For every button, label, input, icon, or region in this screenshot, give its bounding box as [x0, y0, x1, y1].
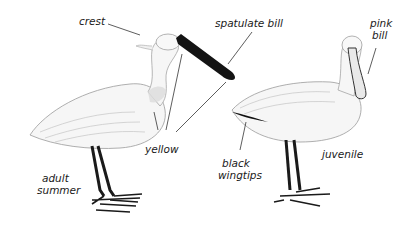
- pink-bill-leader-line: [368, 48, 376, 74]
- yellow-leader-line-bill: [176, 82, 226, 132]
- spatulate-bill-leader-line: [228, 32, 252, 64]
- pink-bill-label-line2: bill: [372, 29, 387, 41]
- black-wingtips-leader-line: [240, 122, 246, 150]
- spoonbill-diagram: crest spatulate bill pink bill yellow ad…: [0, 0, 406, 229]
- adult-summer-label-line2: summer: [37, 184, 80, 196]
- black-wingtips-label-line1: black: [222, 157, 250, 169]
- spatulate-bill-label: spatulate bill: [215, 17, 283, 29]
- crest-label: crest: [79, 15, 105, 27]
- black-wingtips-label-line2: wingtips: [218, 169, 262, 181]
- crest-leader-line: [108, 24, 140, 35]
- juvenile-label: juvenile: [322, 148, 363, 160]
- adult-summer-label-line1: adult: [42, 172, 69, 184]
- pink-bill-label-line1: pink: [370, 17, 392, 29]
- yellow-label: yellow: [145, 143, 179, 155]
